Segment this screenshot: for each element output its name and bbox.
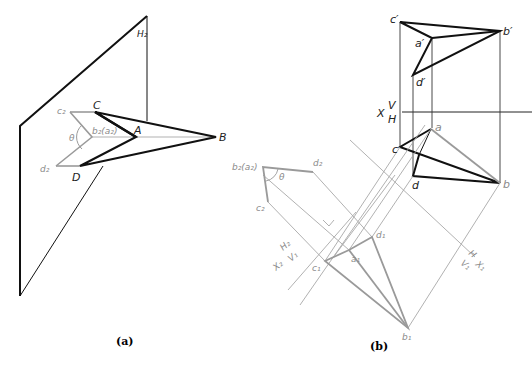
label-a1: a₁ xyxy=(351,254,361,264)
panel-b: c′ b′ a′ d′ X V H a c d b b₂(a₂) d₂ c₂ θ… xyxy=(232,13,532,353)
construct-c1-c2 xyxy=(268,202,325,261)
label-c: c xyxy=(392,143,398,156)
label-b2a2: b₂(a₂) xyxy=(92,126,117,136)
top-view-edge-ab xyxy=(431,129,500,183)
label-plane-h2: H₂ xyxy=(137,29,148,39)
label-b-prime: b′ xyxy=(503,25,513,38)
caption-b: (b) xyxy=(370,340,388,353)
label-B: B xyxy=(219,131,227,144)
label-D: D xyxy=(72,171,80,184)
label-C: C xyxy=(93,99,101,112)
label-b1: b₁ xyxy=(402,332,412,342)
label-b2a2: b₂(a₂) xyxy=(232,162,257,172)
label-c2: c₂ xyxy=(57,106,66,116)
label-theta-b: θ xyxy=(279,172,285,182)
label-axis1-V1: V₁ xyxy=(459,258,473,272)
label-a: a xyxy=(435,121,442,134)
right-angle-marker xyxy=(323,220,334,226)
label-axis2-X2: X₂ xyxy=(270,258,285,273)
label-axis1-H: H xyxy=(467,248,479,260)
construct-extra-2 xyxy=(335,175,395,255)
label-d: d xyxy=(412,179,420,192)
construct-b-b1 xyxy=(408,183,500,328)
label-d1: d₁ xyxy=(376,230,386,240)
label-c1: c₁ xyxy=(312,263,321,273)
construct-a1-b2 xyxy=(263,175,349,250)
top-view-dark xyxy=(400,129,500,183)
label-axis-X: X xyxy=(376,107,385,120)
panel-a: H₂ C A B D c₂ d₂ b₂(a₂) θ (a) xyxy=(20,16,227,348)
label-c-prime: c′ xyxy=(390,13,399,26)
caption-a: (a) xyxy=(116,335,134,348)
label-A: A xyxy=(133,124,142,137)
plane-h2-bottom-edge xyxy=(20,166,103,296)
label-b: b xyxy=(503,178,510,191)
label-a-prime: a′ xyxy=(415,37,425,50)
label-axis2-H2: H₂ xyxy=(278,238,293,253)
label-d2: d₂ xyxy=(40,164,50,174)
label-d-prime: d′ xyxy=(416,76,426,89)
label-axis2-V1: V₁ xyxy=(286,249,300,263)
label-axis-V: V xyxy=(388,99,397,112)
label-axis1-X1: X₁ xyxy=(473,258,488,273)
label-c2: c₂ xyxy=(256,203,265,213)
label-axis-H: H xyxy=(388,113,396,126)
label-d2: d₂ xyxy=(313,158,323,168)
projection-diagram: H₂ C A B D c₂ d₂ b₂(a₂) θ (a) xyxy=(0,0,532,365)
label-theta: θ xyxy=(69,133,75,143)
object-ABCD xyxy=(80,112,216,166)
construct-c-c1 xyxy=(325,147,400,261)
